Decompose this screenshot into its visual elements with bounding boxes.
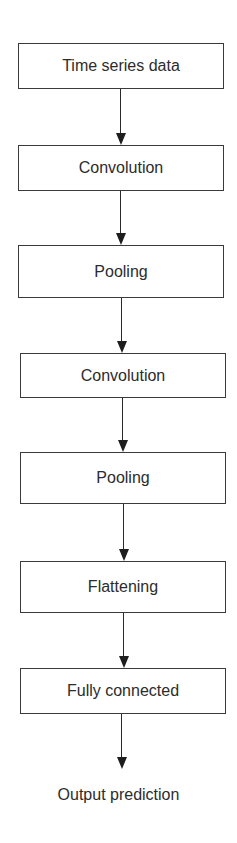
node-label: Pooling — [96, 469, 149, 487]
node-pooling-2: Pooling — [20, 452, 226, 504]
connector-line — [120, 89, 121, 135]
connector-line — [121, 714, 122, 758]
arrow-down-icon — [117, 341, 127, 353]
connector-line — [120, 191, 121, 235]
arrow-down-icon — [119, 656, 129, 668]
node-label: Convolution — [81, 367, 166, 385]
arrow-down-icon — [116, 133, 126, 145]
arrow-down-icon — [117, 757, 127, 769]
node-fully-connected: Fully connected — [20, 668, 226, 714]
node-label: Convolution — [79, 159, 164, 177]
connector-line — [123, 613, 124, 658]
node-flattening: Flattening — [20, 561, 226, 613]
connector-line — [122, 398, 123, 442]
node-label: Pooling — [94, 263, 147, 281]
node-convolution-1: Convolution — [18, 145, 224, 191]
node-label: Time series data — [62, 57, 180, 75]
connector-line — [123, 504, 124, 550]
node-label: Flattening — [88, 578, 158, 596]
arrow-down-icon — [118, 440, 128, 452]
node-convolution-2: Convolution — [20, 353, 226, 398]
arrow-down-icon — [116, 233, 126, 245]
connector-line — [121, 298, 122, 342]
node-pooling-1: Pooling — [18, 245, 224, 298]
arrow-down-icon — [119, 549, 129, 561]
node-time-series-data: Time series data — [18, 43, 224, 89]
node-label: Fully connected — [67, 682, 179, 700]
output-prediction-label: Output prediction — [0, 786, 237, 804]
